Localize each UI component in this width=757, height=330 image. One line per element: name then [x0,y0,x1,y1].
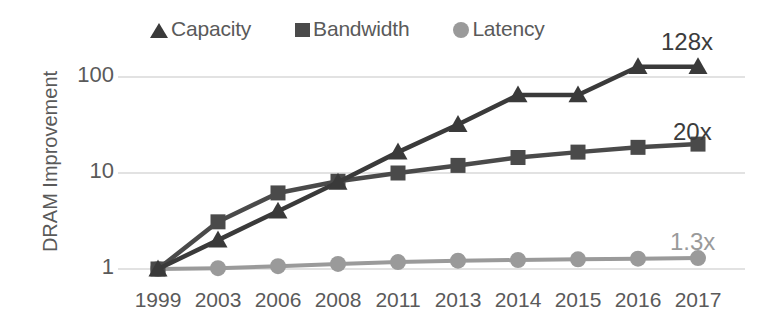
square-marker-icon [451,158,466,173]
x-tick-2003: 2003 [188,288,248,312]
square-marker-icon [211,214,226,229]
plot-area [0,0,757,330]
x-tick-2017: 2017 [668,288,728,312]
square-marker-icon [391,166,406,181]
data-line-bandwidth [158,144,698,269]
x-tick-2015: 2015 [548,288,608,312]
data-line-latency [158,258,698,269]
square-marker-icon [271,185,286,200]
series-line-bandwidth [151,137,706,277]
x-tick-2016: 2016 [608,288,668,312]
x-tick-2014: 2014 [488,288,548,312]
x-tick-2008: 2008 [308,288,368,312]
x-tick-2006: 2006 [248,288,308,312]
chart-container: Capacity Bandwidth Latency DRAM Improvem… [0,0,757,330]
circle-marker-icon [450,253,466,269]
x-tick-2013: 2013 [428,288,488,312]
x-tick-1999: 1999 [128,288,188,312]
circle-marker-icon [510,252,526,268]
circle-marker-icon [270,258,286,274]
annotation-bandwidth-end: 20x [673,118,712,146]
square-marker-icon [631,140,646,155]
annotation-latency-end: 1.3x [670,228,715,256]
series-line-latency [150,250,706,277]
series-line-capacity [149,57,708,276]
square-marker-icon [511,150,526,165]
circle-marker-icon [390,254,406,270]
circle-marker-icon [210,260,226,276]
circle-marker-icon [330,256,346,272]
square-marker-icon [571,145,586,160]
circle-marker-icon [630,251,646,267]
gridlines [118,77,745,269]
annotation-capacity-end: 128x [661,28,713,56]
x-tick-2011: 2011 [368,288,428,312]
circle-marker-icon [570,251,586,267]
